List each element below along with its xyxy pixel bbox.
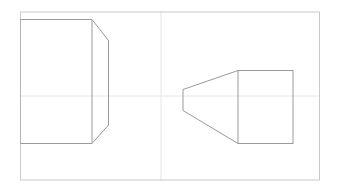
technical-drawing-canvas[interactable] xyxy=(0,0,341,193)
cad-drawing-viewport[interactable] xyxy=(0,0,341,193)
